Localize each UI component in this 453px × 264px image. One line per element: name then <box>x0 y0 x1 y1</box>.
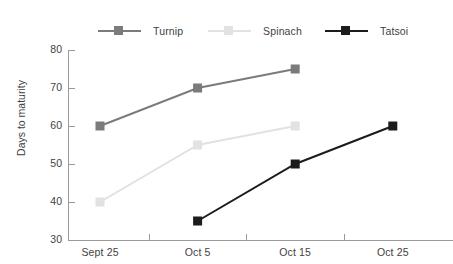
data-point-spinach[interactable] <box>193 141 202 150</box>
data-point-turnip[interactable] <box>193 84 202 93</box>
data-point-turnip[interactable] <box>291 65 300 74</box>
data-point-tatsoi[interactable] <box>291 160 300 169</box>
data-point-tatsoi[interactable] <box>193 217 202 226</box>
series-layer <box>0 0 453 264</box>
data-point-spinach[interactable] <box>96 198 105 207</box>
data-point-spinach[interactable] <box>291 122 300 131</box>
line-chart: Turnip Spinach Tatsoi 807060504030 Sept … <box>0 0 453 264</box>
series-line-spinach <box>100 126 295 202</box>
data-point-turnip[interactable] <box>96 122 105 131</box>
series-line-turnip <box>100 69 295 126</box>
plot-area: 807060504030 Sept 25Oct 5Oct 15Oct 25 Da… <box>0 0 453 264</box>
data-point-tatsoi[interactable] <box>388 122 397 131</box>
